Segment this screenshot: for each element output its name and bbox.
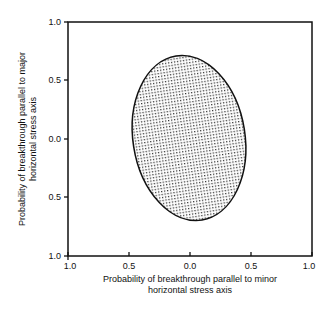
x-tick-label: 0.5 — [245, 261, 258, 271]
y-tick-label: 0.5 — [48, 192, 61, 202]
y-tick-label: 1.0 — [48, 251, 61, 261]
x-axis-label-line2: horizontal stress axis — [148, 285, 233, 295]
x-tick-label: 0.5 — [123, 261, 136, 271]
y-axis-label-line1: Probability of breakthrough parallel to … — [17, 52, 27, 226]
x-tick-label: 1.0 — [303, 261, 316, 271]
x-tick-label: 1.0 — [64, 261, 77, 271]
y-tick-label: 1.0 — [48, 17, 61, 27]
y-tick-label: 0.5 — [48, 75, 61, 85]
x-tick-label: 0.0 — [184, 261, 197, 271]
chart: 1.0 0.5 0.0 0.5 1.0 1.0 0.5 0.0 0.5 1.0 … — [0, 0, 334, 310]
y-tick-label: 0.0 — [48, 134, 61, 144]
y-axis-label-line2: horizontal stress axis — [28, 96, 38, 181]
x-axis-label-line1: Probability of breakthrough parallel to … — [103, 274, 277, 284]
